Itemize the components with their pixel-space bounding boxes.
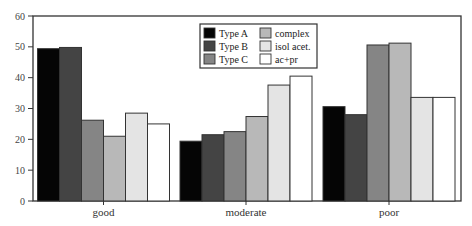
bar-group-poor xyxy=(323,43,455,201)
bar xyxy=(148,124,170,201)
y-tick-label: 60 xyxy=(15,11,25,22)
legend-item: Type A xyxy=(204,28,249,39)
bar-chart: 0102030405060 goodmoderatepoor Type ATyp… xyxy=(0,0,472,226)
legend-swatch xyxy=(260,54,271,64)
bar xyxy=(411,97,433,201)
bar xyxy=(268,85,290,201)
legend-item: complex xyxy=(260,28,309,39)
legend-swatch xyxy=(204,41,215,51)
legend: Type AType BType Ccomplexisol acet.ac+pr xyxy=(200,24,317,68)
bar xyxy=(389,43,411,201)
bar xyxy=(104,136,126,201)
bar xyxy=(290,76,312,201)
legend-swatch xyxy=(204,54,215,64)
bar xyxy=(367,45,389,201)
bar xyxy=(202,135,224,201)
bar xyxy=(345,115,367,201)
y-tick-label: 20 xyxy=(15,134,25,145)
legend-swatch xyxy=(204,28,215,38)
legend-label: complex xyxy=(275,28,309,39)
legend-item: ac+pr xyxy=(260,54,299,65)
bar xyxy=(323,107,345,201)
legend-swatch xyxy=(260,41,271,51)
legend-label: ac+pr xyxy=(275,54,299,65)
y-tick-label: 50 xyxy=(15,41,25,52)
bar xyxy=(82,120,104,201)
bar xyxy=(433,97,455,201)
y-tick-label: 40 xyxy=(15,72,25,83)
legend-item: Type C xyxy=(204,54,248,65)
x-category-label: good xyxy=(93,206,116,218)
bar-group-good xyxy=(38,47,170,201)
y-tick-label: 0 xyxy=(20,196,25,207)
legend-swatch xyxy=(260,28,271,38)
x-category-label: moderate xyxy=(226,206,267,218)
bar xyxy=(224,132,246,201)
y-axis: 0102030405060 xyxy=(15,11,33,207)
bar xyxy=(180,141,202,201)
x-axis: goodmoderatepoor xyxy=(93,201,400,218)
bar-group-moderate xyxy=(180,76,312,201)
bar xyxy=(126,113,148,201)
bar xyxy=(246,117,268,201)
legend-label: Type C xyxy=(219,54,248,65)
legend-label: Type A xyxy=(219,28,249,39)
legend-item: isol acet. xyxy=(260,41,311,52)
bar xyxy=(60,47,82,201)
legend-label: isol acet. xyxy=(275,41,311,52)
legend-label: Type B xyxy=(219,41,248,52)
y-tick-label: 10 xyxy=(15,165,25,176)
bar xyxy=(38,49,60,201)
y-tick-label: 30 xyxy=(15,103,25,114)
legend-item: Type B xyxy=(204,41,248,52)
x-category-label: poor xyxy=(379,206,400,218)
